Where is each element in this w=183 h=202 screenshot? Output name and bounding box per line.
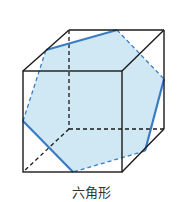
cube-diagram [0, 0, 183, 202]
figure-caption: 六角形 [0, 182, 183, 201]
